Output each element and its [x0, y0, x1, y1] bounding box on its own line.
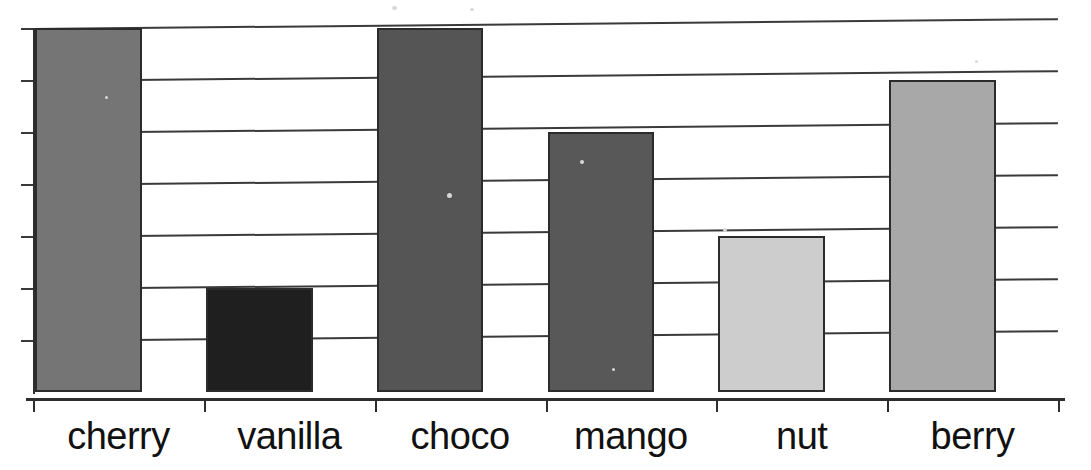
x-axis-tick: [1058, 398, 1060, 412]
scan-speckle: [470, 8, 474, 11]
bar-mango: [548, 132, 655, 392]
x-axis-label-nut: nut: [716, 412, 887, 460]
bar-cherry: [35, 28, 142, 392]
x-axis-tick: [546, 398, 548, 412]
bar-nut: [718, 236, 825, 392]
x-axis-tick: [887, 398, 889, 412]
x-axis-label-cherry: cherry: [33, 412, 204, 460]
bar-berry: [889, 80, 996, 392]
bar-group: [33, 28, 1058, 392]
bar-chart-figure: cherryvanillachocomangonutberry: [0, 0, 1091, 470]
x-axis-label-group: cherryvanillachocomangonutberry: [33, 412, 1058, 464]
x-axis-tick: [204, 398, 206, 412]
scan-speckle: [392, 6, 397, 10]
x-axis-label-mango: mango: [546, 412, 717, 460]
x-axis-label-vanilla: vanilla: [204, 412, 375, 460]
bar-vanilla: [206, 288, 313, 392]
x-axis-tick: [716, 398, 718, 412]
x-axis-tick: [33, 398, 35, 412]
x-axis-label-berry: berry: [887, 412, 1058, 460]
x-axis-label-choco: choco: [375, 412, 546, 460]
x-axis-tick: [375, 398, 377, 412]
bar-choco: [377, 28, 484, 392]
y-axis-line: [33, 28, 35, 394]
